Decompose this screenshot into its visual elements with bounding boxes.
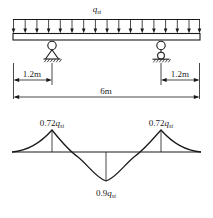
left-peak-label: 0.72qst [40,118,65,129]
dimension-right-overhang: 1.2m [161,69,200,82]
dimension-left-overhang: 1.2m [14,69,53,82]
right-peak-value: 0.72 [149,118,165,128]
mid-sag-label: 0.9qst [96,188,116,199]
mid-sag-sub: st [112,193,116,199]
mid-sag-value: 0.9 [96,188,108,198]
load-label-sub: st [97,9,101,15]
right-peak-label: 0.72qst [149,118,174,129]
left-peak-value: 0.72 [40,118,56,128]
dimension-left-overhang-label: 1.2m [23,69,41,79]
dimension-total-span: 6m [14,86,200,99]
load-label: qst [93,4,102,15]
right-peak-sub: st [169,123,173,129]
dimension-total-span-label: 6m [100,86,112,96]
distributed-load-arrows [12,20,202,34]
left-pin-support [44,41,62,62]
dimension-right-overhang-label: 1.2m [171,69,189,79]
beam-moment-figure: qst [0,0,213,218]
moment-curve [12,130,201,181]
right-roller-support [153,41,171,62]
left-support-hatch [44,59,61,62]
left-peak-sub: st [60,123,64,129]
beam-body [13,34,200,41]
right-support-hatch [153,59,170,62]
